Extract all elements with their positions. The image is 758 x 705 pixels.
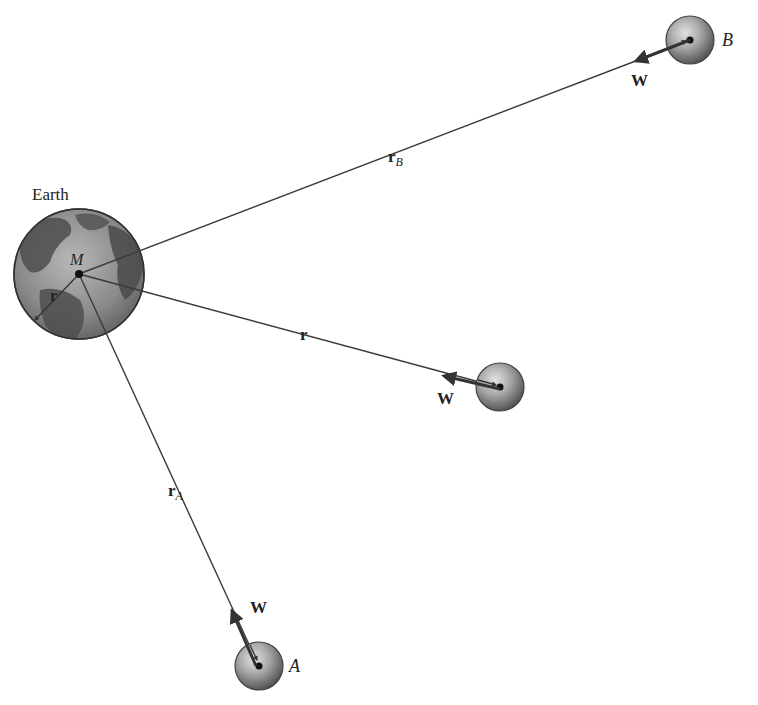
line-r <box>79 274 498 387</box>
r-B-sub: B <box>396 155 404 169</box>
gravitation-diagram: Earth M r rB r rA W W W B A <box>0 0 758 705</box>
line-r-B <box>79 41 688 274</box>
earth-radius-label: r <box>50 287 57 304</box>
weight-label-A: W <box>250 598 267 617</box>
earth-label: Earth <box>32 185 69 204</box>
body-mid <box>444 363 524 411</box>
earth-mass-label: M <box>69 251 85 268</box>
weight-label-B: W <box>631 71 648 90</box>
weight-label-mid: W <box>437 389 454 408</box>
body-A-label: A <box>288 656 301 676</box>
line-r-A <box>79 274 258 664</box>
r-A-sub: A <box>175 489 184 503</box>
r-label: r <box>300 325 308 344</box>
earth-center-dot <box>75 270 83 278</box>
body-B <box>636 16 714 64</box>
body-B-label: B <box>722 30 733 50</box>
